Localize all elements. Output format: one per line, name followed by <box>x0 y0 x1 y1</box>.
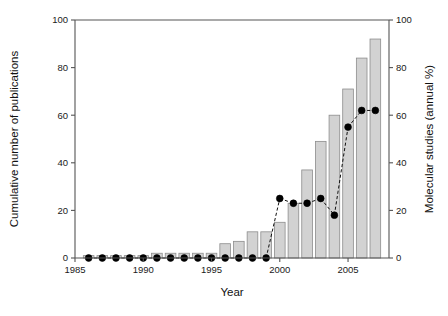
bar <box>261 232 272 258</box>
data-point <box>358 107 365 114</box>
y2-tick-label: 20 <box>396 205 407 216</box>
data-point <box>317 195 324 202</box>
chart-figure: 020406080100 020406080100 19851990199520… <box>0 0 448 316</box>
bar <box>247 232 258 258</box>
data-point <box>290 200 297 207</box>
y-tick-label: 40 <box>57 157 68 168</box>
y-tick-label: 20 <box>57 205 68 216</box>
bar <box>288 203 299 258</box>
publications-chart: 020406080100 020406080100 19851990199520… <box>0 0 448 316</box>
y2-tick-label: 0 <box>396 252 401 263</box>
data-point <box>372 107 379 114</box>
bar <box>370 39 381 258</box>
x-axis-title: Year <box>220 286 243 298</box>
bar <box>356 58 367 258</box>
y2-tick-label: 60 <box>396 110 407 121</box>
data-point <box>331 212 338 219</box>
y-tick-label: 80 <box>57 62 68 73</box>
bar <box>274 222 285 258</box>
y-tick-label: 60 <box>57 110 68 121</box>
y2-axis-title: Molecular studies (annual %) <box>423 65 435 213</box>
x-tick-label: 1990 <box>133 264 154 275</box>
bar <box>302 170 313 258</box>
x-tick-label: 2000 <box>269 264 290 275</box>
y-tick-label: 0 <box>63 252 68 263</box>
x-tick-label: 1995 <box>201 264 222 275</box>
bar <box>329 115 340 258</box>
y-tick-label: 100 <box>52 14 68 25</box>
y2-tick-label: 40 <box>396 157 407 168</box>
bar <box>343 89 354 258</box>
data-point <box>345 124 352 131</box>
data-point <box>304 200 311 207</box>
y2-tick-label: 80 <box>396 62 407 73</box>
x-tick-label: 2005 <box>337 264 358 275</box>
x-tick-label: 1985 <box>64 264 85 275</box>
y-axis-title: Cumulative number of publications <box>8 51 20 228</box>
y2-tick-label: 100 <box>396 14 412 25</box>
data-point <box>276 195 283 202</box>
